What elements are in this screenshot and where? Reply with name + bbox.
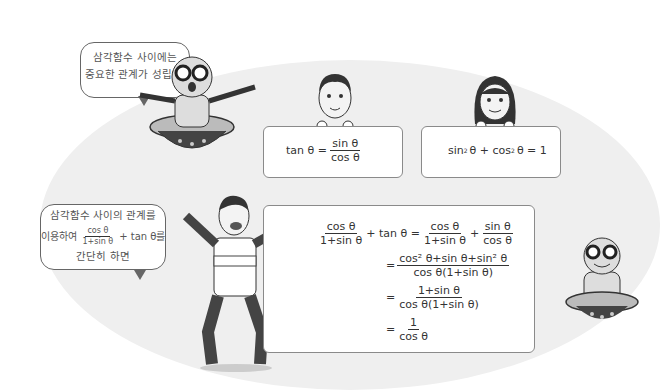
- tan-fraction: sin θ cos θ: [329, 137, 362, 164]
- alien-ufo-character-top: [130, 55, 270, 155]
- tan-identity-box: tan θ = sin θ cos θ: [263, 126, 403, 178]
- tan-lhs: tan θ =: [286, 144, 327, 157]
- derivation-line-1: cos θ1+sin θ + tan θ = cos θ1+sin θ + si…: [316, 220, 516, 247]
- derivation-line-3: = 1+sin θcos θ(1+sin θ): [386, 284, 483, 311]
- girl-character-top: [467, 68, 523, 130]
- derivation-line-2: = cos² θ+sin θ+sin² θcos θ(1+sin θ): [386, 252, 511, 279]
- derivation-line-4: = 1cos θ: [386, 316, 432, 343]
- speech-bubble-left: 삼각함수 사이의 관계를 이용하여 cos θ 1+sin θ + tan θ를…: [40, 204, 166, 270]
- bubble-fraction: cos θ 1+sin θ: [81, 226, 116, 247]
- pythagorean-identity-box: sin2 θ + cos2 θ = 1: [421, 126, 561, 178]
- boy-standing-character: [168, 192, 274, 374]
- alien-ufo-character-right: [562, 232, 642, 332]
- bubble-tail-left: [134, 270, 146, 280]
- derivation-box: cos θ1+sin θ + tan θ = cos θ1+sin θ + si…: [263, 205, 535, 353]
- boy-character-top: [310, 68, 360, 130]
